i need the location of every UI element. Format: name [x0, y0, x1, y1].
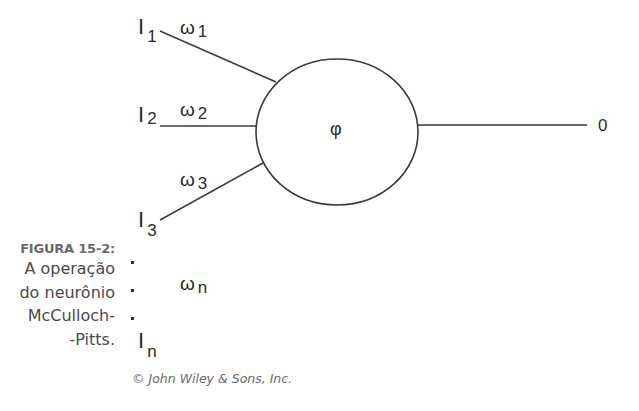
weight-symbol: ω [180, 169, 195, 190]
caption-line: McCulloch- [19, 304, 115, 328]
weight-2-label: ω2 [180, 100, 207, 119]
input-symbol: I [138, 207, 144, 232]
weight-symbol: ω [180, 273, 195, 294]
output-label: 0 [598, 117, 607, 134]
input-subscript: 3 [147, 221, 156, 240]
input-2-label: I2 [138, 104, 157, 126]
input-subscript: 1 [147, 27, 156, 46]
copyright-credit: © John Wiley & Sons, Inc. [132, 371, 292, 386]
weight-3-label: ω3 [180, 170, 207, 189]
input-symbol: I [138, 328, 144, 353]
neuron-diagram-figure: I1 I2 I3 In ω1 ω2 ω3 ωn φ 0 FIGURA 15-2:… [0, 0, 639, 411]
input-symbol: I [138, 102, 144, 127]
caption-line: do neurônio [19, 281, 115, 305]
weight-symbol: ω [180, 99, 195, 120]
figure-number: FIGURA 15-2: [19, 240, 115, 257]
caption-line: A operação [19, 257, 115, 281]
ellipsis-dot [131, 261, 134, 264]
weight-subscript: 1 [198, 22, 207, 41]
input-3-connection [160, 163, 263, 220]
weight-n-label: ωn [180, 274, 207, 293]
input-n-label: In [138, 330, 157, 352]
input-subscript: 2 [147, 109, 156, 128]
weight-subscript: 3 [198, 174, 207, 193]
input-symbol: I [138, 14, 144, 39]
weight-subscript: 2 [198, 104, 207, 123]
ellipsis-dot [131, 317, 134, 320]
figure-caption: FIGURA 15-2: A operação do neurônio McCu… [19, 240, 115, 351]
input-subscript: n [147, 342, 156, 361]
weight-symbol: ω [180, 17, 195, 38]
ellipsis-dot [131, 289, 134, 292]
weight-subscript: n [198, 278, 207, 297]
input-1-label: I1 [138, 16, 157, 38]
activation-function-symbol: φ [330, 120, 342, 138]
input-3-label: I3 [138, 209, 157, 231]
input-1-connection [160, 31, 276, 82]
weight-1-label: ω1 [180, 18, 207, 37]
caption-line: -Pitts. [19, 328, 115, 352]
